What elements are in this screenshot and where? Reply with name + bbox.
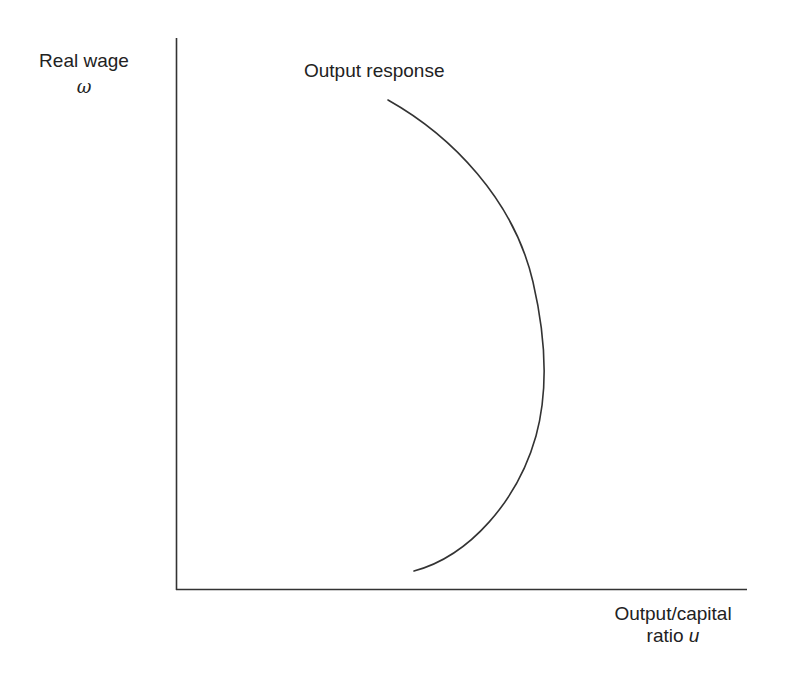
y-axis-label-text: Real wage [39,50,129,71]
x-axis-label-line1: Output/capital [598,603,748,625]
diagram-canvas [0,0,800,687]
x-axis-label-line2: ratio u [598,625,748,647]
x-axis-label: Output/capital ratio u [598,603,748,647]
curve-label: Output response [304,60,444,82]
y-axis-symbol: ω [20,76,148,98]
output-response-curve [388,100,544,571]
x-axis-symbol: u [689,625,700,646]
y-axis-label: Real wage ω [20,50,148,98]
x-axis-label-line2-text: ratio [647,625,689,646]
